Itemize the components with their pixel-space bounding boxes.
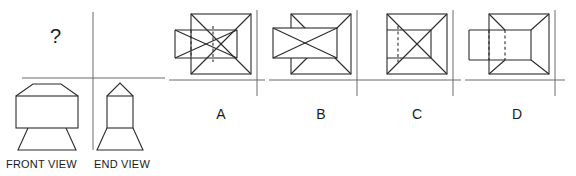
option-b-drawing — [269, 0, 373, 104]
missing-view-question-mark: ? — [50, 26, 61, 46]
given-views-panel: ? FRONT VIEW END VIEW — [0, 0, 172, 176]
option-a-square — [191, 14, 251, 74]
answer-options-area: A — [165, 0, 576, 176]
option-a-hidden-lines — [191, 26, 213, 62]
option-b[interactable]: B — [269, 0, 373, 140]
option-a-protruding-rectangle — [175, 30, 237, 58]
option-d-drawing — [465, 0, 569, 104]
option-d-protruding-rectangle — [469, 30, 505, 60]
front-view-body — [16, 96, 78, 128]
given-views-drawing — [0, 0, 172, 156]
end-view-caption: END VIEW — [94, 158, 150, 170]
option-a-label: A — [169, 106, 273, 122]
option-c-drawing — [365, 0, 469, 104]
front-view-base — [18, 128, 76, 150]
option-c[interactable]: C — [365, 0, 469, 140]
option-d[interactable]: D — [465, 0, 569, 140]
option-c-inner-rectangle — [387, 30, 431, 58]
end-view-body — [107, 96, 133, 128]
front-view-shape — [16, 84, 78, 150]
option-d-label: D — [465, 106, 569, 122]
projection-question-sheet: ? FRONT VIEW END VIEW — [0, 0, 576, 176]
option-a-drawing — [169, 0, 273, 104]
front-view-caption: FRONT VIEW — [6, 158, 77, 170]
end-view-base — [97, 128, 143, 150]
end-view-shape — [97, 83, 143, 150]
option-d-hidden-lines — [489, 30, 505, 60]
option-b-protruding-rectangle — [273, 28, 337, 58]
option-c-label: C — [365, 106, 469, 122]
option-d-square — [489, 14, 549, 74]
option-c-square — [387, 14, 447, 74]
end-view-roof — [107, 83, 133, 96]
option-a[interactable]: A — [169, 0, 273, 140]
front-view-roof — [16, 84, 78, 96]
option-b-label: B — [269, 106, 373, 122]
